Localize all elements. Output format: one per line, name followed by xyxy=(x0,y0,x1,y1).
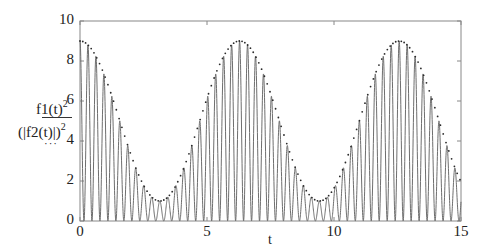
x-tick-label: 15 xyxy=(453,224,468,239)
y-tick-label: 4 xyxy=(67,132,75,147)
y-label-f1: f1(t)2 xyxy=(36,98,68,118)
y-tick-label: 8 xyxy=(67,52,75,67)
f1-legend-line xyxy=(42,117,72,118)
x-tick-label: 5 xyxy=(203,224,211,239)
y-label-f1-text: f1(t) xyxy=(36,101,63,117)
y-label-f1-exponent: 2 xyxy=(63,98,68,109)
y-label-f2: (|f2(t)|)2 xyxy=(18,121,66,141)
y-tick-label: 2 xyxy=(67,172,75,187)
x-axis-title: t xyxy=(268,232,272,248)
f2-legend-dots: ··· xyxy=(44,139,58,147)
y-label-f2-exponent: 2 xyxy=(61,121,66,132)
x-tick-label: 0 xyxy=(76,224,84,239)
x-tick-label: 10 xyxy=(326,224,341,239)
f1-squared-trace xyxy=(80,41,461,221)
y-tick-label: 0 xyxy=(67,212,75,227)
y-tick-label: 10 xyxy=(59,12,74,27)
